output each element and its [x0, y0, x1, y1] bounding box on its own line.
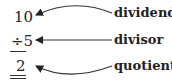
quotient-value: 2 — [16, 59, 26, 74]
quotient-double-underline-top — [10, 75, 26, 76]
quotient-label: quotient — [114, 59, 172, 72]
divisor-label: divisor — [114, 33, 163, 46]
quotient-double-underline-bottom — [10, 78, 26, 79]
dividend-arrow — [36, 6, 112, 15]
divisor-value: ÷5 — [11, 34, 33, 49]
dividend-value: 10 — [14, 10, 33, 25]
division-parts-diagram: 10 ÷5 2 dividend divisor quotient — [0, 0, 172, 83]
dividend-label: dividend — [114, 6, 172, 19]
divisor-underline — [10, 51, 26, 52]
quotient-arrow — [36, 66, 112, 74]
